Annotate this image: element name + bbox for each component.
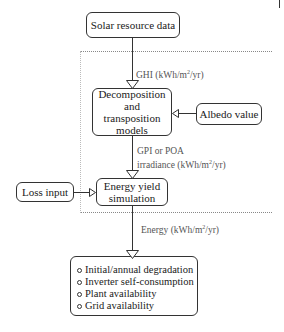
connector-albedo-to-decomposition [178, 113, 196, 114]
bullet-icon [77, 304, 82, 309]
solar-resource-node: Solar resource data [86, 12, 180, 38]
list-item: Plant availability [77, 288, 197, 300]
loss-input-label: Loss input [22, 186, 68, 198]
list-item: Grid availability [77, 300, 197, 312]
losses-list-node: Initial/annual degradation Inverter self… [70, 256, 198, 316]
energy-yield-node: Energy yield simulation [96, 178, 168, 206]
decomposition-label-1: Decomposition [98, 88, 165, 100]
ghi-label: GHI (kWh/m2/yr) [136, 67, 204, 81]
decomposition-label-2: and [124, 100, 140, 112]
bullet-icon [77, 292, 82, 297]
page-edge-mark [279, 0, 280, 8]
arrow-head-icon [126, 170, 139, 179]
gpi-poa-label: GPI or POA irradiance (kWh/m2/yr) [137, 146, 226, 171]
albedo-label: Albedo value [200, 108, 259, 120]
losses-list: Initial/annual degradation Inverter self… [71, 257, 197, 312]
decomposition-node: Decomposition and transposition models [92, 88, 172, 136]
bullet-icon [77, 280, 82, 285]
list-item: Initial/annual degradation [77, 264, 197, 276]
arrow-head-icon [126, 80, 139, 89]
energy-yield-label-1: Energy yield [104, 180, 160, 192]
decomposition-label-3: transposition [104, 112, 161, 124]
solar-resource-label: Solar resource data [91, 19, 175, 31]
energy-yield-label-2: simulation [109, 192, 155, 204]
list-item: Inverter self-consumption [77, 276, 197, 288]
loss-input-node: Loss input [16, 182, 74, 202]
connector-decomposition-to-energy-yield [132, 136, 133, 172]
arrow-head-icon [172, 109, 179, 118]
connector-solar-to-decomposition [132, 38, 133, 82]
arrow-head-icon [89, 188, 96, 197]
decomposition-label-4: models [116, 124, 148, 136]
albedo-node: Albedo value [196, 103, 262, 125]
energy-label: Energy (kWh/m2/yr) [141, 222, 219, 236]
arrow-head-icon [126, 250, 139, 259]
bullet-icon [77, 268, 82, 273]
connector-loss-to-energy-yield [74, 192, 90, 193]
connector-energy-yield-to-output [132, 206, 133, 252]
